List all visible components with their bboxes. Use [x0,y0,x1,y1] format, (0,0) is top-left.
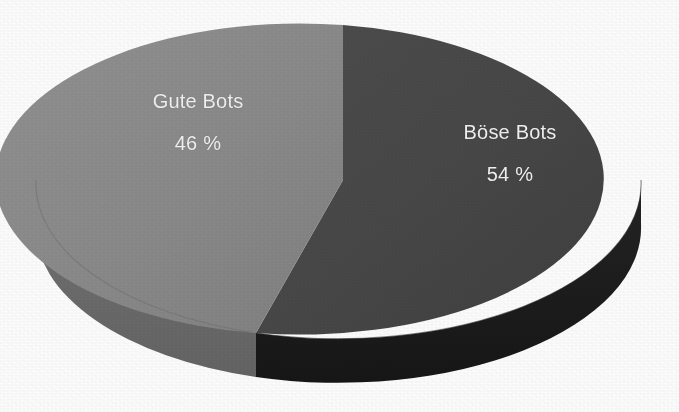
pie-chart-figure: Gute Bots 46 % Böse Bots 54 % [0,0,679,412]
pie-label-gute-bots-value: 46 % [108,128,288,158]
pie-label-gute-bots: Gute Bots 46 % [108,86,288,159]
pie-label-boese-bots-value: 54 % [420,159,600,189]
pie-chart-graphic [0,0,679,412]
pie-label-boese-bots-name: Böse Bots [420,117,600,147]
pie-label-gute-bots-name: Gute Bots [108,86,288,116]
pie-label-boese-bots: Böse Bots 54 % [420,117,600,190]
